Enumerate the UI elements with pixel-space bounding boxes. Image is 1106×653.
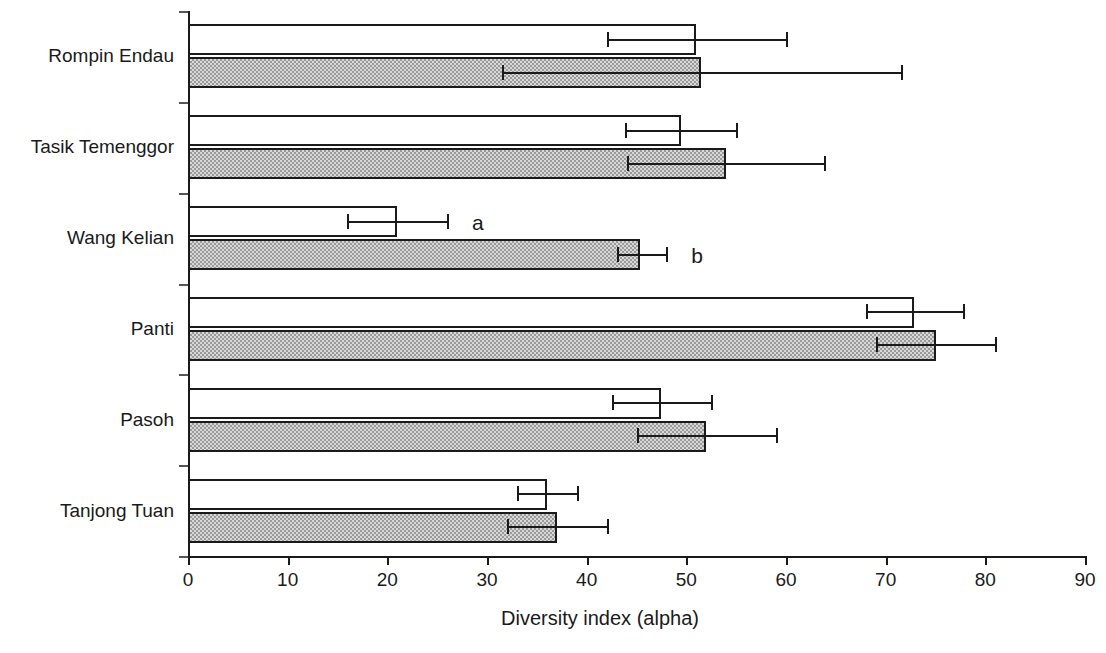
error-bar-a-0	[607, 39, 786, 41]
x-axis-tick-label: 80	[975, 570, 996, 589]
error-bar-cap-low	[625, 123, 627, 138]
bar-chart: Rompin EndauTasik TemenggorWang KelianPa…	[0, 0, 1106, 653]
error-bar-b-0	[502, 72, 901, 74]
category-label: Pasoh	[0, 409, 174, 431]
x-axis-tick-label: 60	[775, 570, 796, 589]
x-axis-tick-label: 50	[676, 570, 697, 589]
x-axis-tick	[886, 556, 888, 565]
error-bar-b-1	[627, 163, 824, 165]
x-axis-tick	[387, 556, 389, 565]
error-bar-cap-low	[876, 337, 878, 352]
error-bar-cap-low	[517, 486, 519, 501]
x-axis-line	[188, 556, 1085, 558]
x-axis-tick	[985, 556, 987, 565]
x-axis-tick-label: 70	[875, 570, 896, 589]
error-bar-b-4	[637, 435, 777, 437]
error-bar-cap-high	[736, 123, 738, 138]
error-bar-cap-low	[507, 519, 509, 534]
x-axis-tick-label: 30	[476, 570, 497, 589]
y-axis-tick	[179, 11, 188, 13]
error-bar-cap-low	[637, 428, 639, 443]
error-bar-cap-high	[666, 247, 668, 262]
x-axis-tick-label: 40	[576, 570, 597, 589]
category-label: Rompin Endau	[0, 45, 174, 67]
y-axis-tick	[179, 284, 188, 286]
y-axis-tick	[179, 102, 188, 104]
x-axis-tick-label: 20	[377, 570, 398, 589]
error-bar-cap-low	[347, 214, 349, 229]
error-bar-b-2	[617, 254, 667, 256]
bar-a-5	[188, 479, 547, 510]
y-axis-tick	[179, 465, 188, 467]
category-label: Wang Kelian	[0, 227, 174, 249]
x-axis-tick-label: 10	[277, 570, 298, 589]
error-bar-a-5	[517, 493, 577, 495]
annotation-b: b	[691, 244, 703, 265]
x-axis-tick-label: 90	[1074, 570, 1095, 589]
category-label: Panti	[0, 318, 174, 340]
error-bar-cap-high	[963, 304, 965, 319]
y-axis-tick	[179, 556, 188, 558]
error-bar-cap-high	[447, 214, 449, 229]
x-axis-tick	[786, 556, 788, 565]
error-bar-cap-high	[995, 337, 997, 352]
error-bar-cap-high	[577, 486, 579, 501]
bar-a-4	[188, 388, 661, 419]
x-axis-tick	[288, 556, 290, 565]
error-bar-cap-high	[824, 156, 826, 171]
error-bar-cap-low	[612, 395, 614, 410]
bar-b-2	[188, 239, 640, 270]
x-axis-title: Diversity index (alpha)	[0, 606, 1106, 630]
bar-a-3	[188, 297, 914, 328]
x-axis-title-text: Diversity index (alpha)	[501, 606, 699, 630]
error-bar-a-1	[625, 130, 737, 132]
error-bar-a-3	[866, 311, 964, 313]
plot-area	[188, 11, 1085, 556]
error-bar-b-5	[507, 526, 607, 528]
error-bar-a-2	[347, 221, 447, 223]
category-label: Tasik Temenggor	[0, 136, 174, 158]
category-label: Tanjong Tuan	[0, 500, 174, 522]
error-bar-cap-high	[607, 519, 609, 534]
x-axis-tick-label: 0	[183, 570, 194, 589]
bar-b-5	[188, 512, 557, 543]
x-axis-tick	[587, 556, 589, 565]
x-axis-tick	[188, 556, 190, 565]
annotation-a: a	[472, 211, 484, 232]
error-bar-cap-low	[607, 32, 609, 47]
error-bar-a-4	[612, 402, 712, 404]
error-bar-cap-high	[901, 65, 903, 80]
x-axis-tick	[1085, 556, 1087, 565]
bar-a-1	[188, 115, 681, 146]
error-bar-cap-high	[786, 32, 788, 47]
y-axis-tick	[179, 193, 188, 195]
x-axis-tick	[686, 556, 688, 565]
error-bar-cap-low	[866, 304, 868, 319]
bar-b-4	[188, 421, 706, 452]
error-bar-cap-high	[711, 395, 713, 410]
error-bar-cap-low	[627, 156, 629, 171]
y-axis-tick	[179, 374, 188, 376]
bar-b-3	[188, 330, 936, 361]
error-bar-cap-high	[776, 428, 778, 443]
error-bar-b-3	[876, 344, 996, 346]
error-bar-cap-low	[502, 65, 504, 80]
error-bar-cap-low	[617, 247, 619, 262]
x-axis-tick	[487, 556, 489, 565]
